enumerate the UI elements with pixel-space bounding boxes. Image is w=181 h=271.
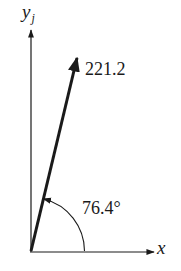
vector-magnitude-label: 221.2 xyxy=(85,60,126,78)
vector-diagram: yj x 221.2 76.4° xyxy=(0,0,181,271)
diagram-canvas xyxy=(0,0,181,271)
angle-arc xyxy=(44,199,85,251)
vector-angle-label: 76.4° xyxy=(82,199,121,217)
force-vector xyxy=(31,58,77,251)
x-axis-label: x xyxy=(157,238,165,257)
y-axis-label: yj xyxy=(22,2,34,21)
y-axis-subscript: j xyxy=(31,11,34,25)
